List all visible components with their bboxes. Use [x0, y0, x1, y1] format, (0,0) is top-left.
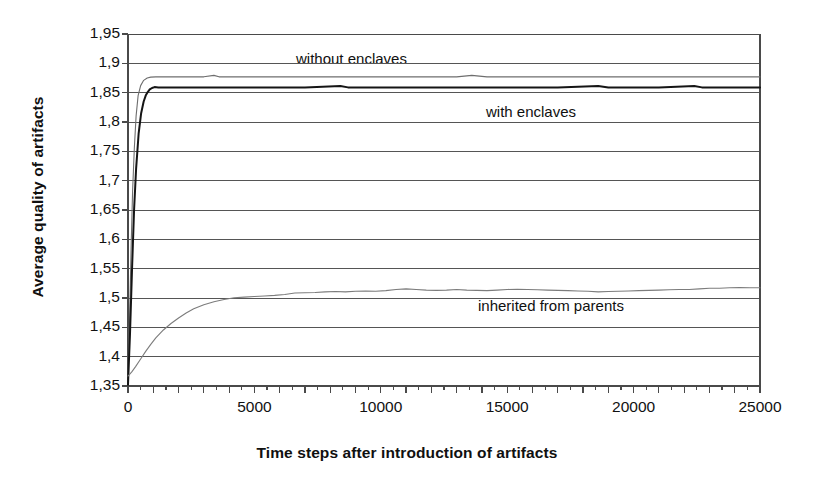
plot-canvas — [0, 0, 814, 487]
series-line-inherited-from-parents — [128, 287, 760, 376]
chart-figure: Average quality of artifacts Time steps … — [0, 0, 814, 487]
series-line-with-enclaves — [128, 86, 760, 385]
